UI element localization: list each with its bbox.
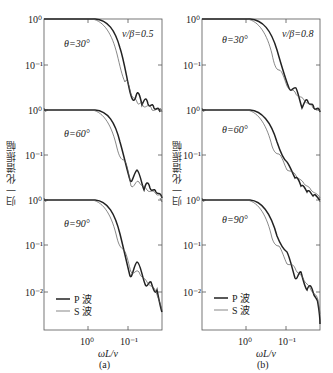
ytick-b-7: 10⁻²: [183, 287, 201, 298]
legend-p-label-b: P 波: [232, 292, 250, 304]
panel-a-svg: 10⁰ 10⁻¹ 10⁰ 10⁻¹ 10⁰ 10⁻¹ 10⁻² 10⁰ 10⁻¹…: [0, 0, 168, 373]
legend-p-label-a: P 波: [74, 293, 92, 305]
ytick-a-3: 10⁰: [28, 105, 42, 116]
ytick-b-6: 10⁻¹: [183, 240, 201, 251]
xlabel-b: ωL/v: [256, 348, 276, 359]
subplot-label-b-60: θ=60°: [222, 124, 248, 135]
xtick-a-1: 10⁰: [80, 336, 94, 347]
legend-s-label-b: S 波: [232, 304, 250, 316]
ytick-a-7: 10⁻²: [25, 287, 43, 298]
ylabel-b: 归一化谱振幅: [170, 140, 185, 206]
subplot-label-b-30: θ=30°: [222, 34, 248, 45]
ylabel-a: 归一化谱振幅: [4, 140, 19, 206]
legend-s-label-a: S 波: [74, 305, 92, 317]
panel-a: 10⁰ 10⁻¹ 10⁰ 10⁻¹ 10⁰ 10⁻¹ 10⁻² 10⁰ 10⁻¹…: [0, 0, 168, 373]
ytick-b-2: 10⁻¹: [183, 60, 201, 71]
ytick-b-3: 10⁰: [186, 105, 200, 116]
ytick-a-1: 10⁰: [28, 14, 42, 25]
caption-a: (a): [99, 359, 110, 371]
ratio-label-a: v/β=0.5: [122, 28, 153, 39]
xlabel-a: ωL/v: [98, 348, 118, 359]
ytick-a-5: 10⁰: [28, 195, 42, 206]
subplot-label-b-90: θ=90°: [222, 214, 248, 225]
ytick-a-6: 10⁻¹: [25, 240, 43, 251]
xtick-b-1: 10⁰: [238, 336, 252, 347]
ytick-b-4: 10⁻¹: [183, 150, 201, 161]
subplot-label-a-90: θ=90°: [64, 218, 90, 229]
ytick-b-1: 10⁰: [186, 14, 200, 25]
subplot-label-a-30: θ=30°: [64, 38, 90, 49]
panel-b-svg: 10⁰ 10⁻¹ 10⁰ 10⁻¹ 10⁰ 10⁻¹ 10⁻² 10⁰ 10⁻¹…: [165, 0, 333, 373]
caption-b: (b): [257, 359, 269, 371]
subplot-label-a-60: θ=60°: [64, 128, 90, 139]
ratio-label-b: v/β=0.8: [282, 28, 313, 39]
xtick-a-2: 10⁻¹: [120, 336, 138, 347]
panel-b: 10⁰ 10⁻¹ 10⁰ 10⁻¹ 10⁰ 10⁻¹ 10⁻² 10⁰ 10⁻¹…: [165, 0, 333, 373]
ytick-a-4: 10⁻¹: [25, 150, 43, 161]
xtick-b-2: 10⁻¹: [278, 336, 296, 347]
ytick-b-5: 10⁰: [186, 195, 200, 206]
ytick-a-2: 10⁻¹: [25, 60, 43, 71]
